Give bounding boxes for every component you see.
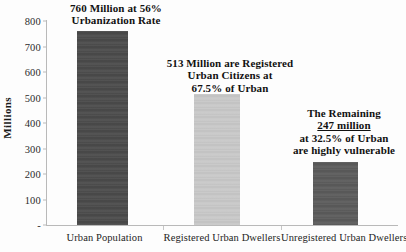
annotation-registered: 513 Million are RegisteredUrban Citizens…: [155, 57, 305, 94]
x-axis-tick-mark: [281, 226, 282, 230]
bar-3: [313, 162, 358, 225]
annotation-line: are highly vulnerable: [282, 144, 406, 156]
annotation-line: 67.5% of Urban: [155, 82, 305, 94]
x-axis-label-3: Unregistered Urban Dwellers: [281, 232, 398, 243]
annotation-line: The Remaining: [282, 107, 406, 119]
bar-texture: [194, 94, 240, 225]
x-axis-label-1: Urban Population: [46, 232, 163, 243]
annotation-line: 247 million: [282, 119, 406, 131]
bar-2: [194, 94, 240, 225]
annotation-line: 513 Million are Registered: [155, 57, 305, 69]
x-axis-line: [46, 225, 398, 226]
annotation-urban-population: 760 Million at 56%Urbanization Rate: [42, 2, 190, 27]
x-axis-label-2: Registered Urban Dwellers: [163, 232, 281, 243]
y-axis-tick-mark: [43, 148, 46, 149]
y-axis-title: Millions: [1, 97, 15, 139]
annotation-unregistered: The Remaining247 millionat 32.5% of Urba…: [282, 107, 406, 157]
y-axis-tick-mark: [43, 174, 46, 175]
y-axis-tick-mark: [43, 72, 46, 73]
annotation-line: Urban Citizens at: [155, 69, 305, 81]
bar-texture: [313, 162, 358, 225]
bar-texture: [77, 31, 128, 225]
y-axis-tick-mark: [43, 199, 46, 200]
bar-chart-figure: Millions -100200300400500600700800 Urban…: [0, 0, 406, 252]
y-axis-tick-mark: [43, 97, 46, 98]
annotation-line: Urbanization Rate: [42, 14, 190, 26]
bar-1: [77, 31, 128, 225]
y-axis-tick-mark: [43, 46, 46, 47]
x-axis-tick-mark: [163, 226, 164, 230]
y-axis-tick-mark: [43, 225, 46, 226]
annotation-line: at 32.5% of Urban: [282, 132, 406, 144]
annotation-line: 760 Million at 56%: [42, 2, 190, 14]
y-axis-tick-mark: [43, 123, 46, 124]
